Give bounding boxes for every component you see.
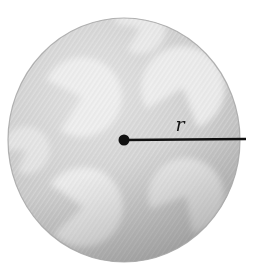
disc-group xyxy=(2,2,240,262)
center-point xyxy=(119,135,130,146)
circle-radius-figure: r xyxy=(0,0,256,271)
radius-segment xyxy=(124,139,246,140)
figure-canvas: r xyxy=(0,0,256,271)
